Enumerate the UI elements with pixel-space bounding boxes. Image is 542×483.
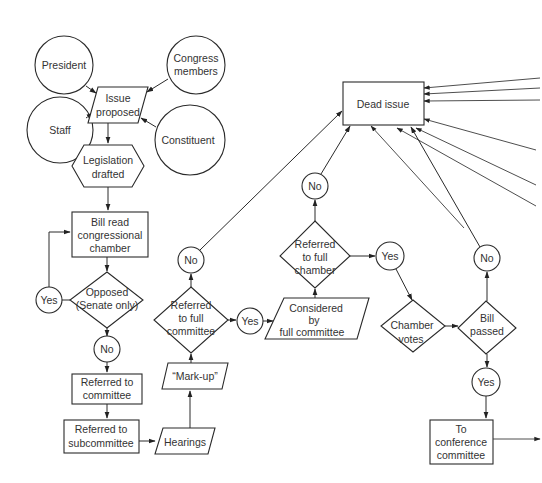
rfch-yes-node: Yes (376, 242, 404, 270)
rfch-no-node: No (302, 173, 328, 199)
markup-label: “Mark-up” (172, 370, 218, 382)
rfc-label-3: committee (167, 325, 216, 337)
chamber-votes-decision: Chamber votes (381, 300, 445, 352)
referred-committee-label-2: committee (83, 389, 132, 401)
bp-no-label: No (480, 252, 494, 264)
considered-label-3: full committee (280, 326, 345, 338)
rfc-no-label: No (184, 254, 198, 266)
legislative-process-flowchart: Dead issue President Congress members St… (0, 0, 542, 483)
referred-subcommittee-label-2: subcommittee (68, 437, 134, 449)
president-label: President (42, 59, 86, 71)
chamber-votes-label-2: votes (398, 333, 423, 345)
legislation-drafted-node: Legislation drafted (72, 145, 144, 187)
rfch-label-1: Referred (295, 238, 336, 250)
considered-label-2: by (308, 314, 320, 326)
bill-read-label-3: chamber (90, 242, 131, 254)
referred-subcommittee-label-1: Referred to (75, 423, 128, 435)
bp-no-node: No (474, 245, 500, 271)
opposed-yes-label: Yes (40, 294, 57, 306)
congress-members-label-2: members (174, 65, 218, 77)
president-node: President (35, 36, 93, 94)
chamber-votes-label-1: Chamber (390, 319, 434, 331)
opposed-no-label: No (100, 343, 114, 355)
legislation-drafted-label-2: drafted (92, 168, 125, 180)
hearings-label: Hearings (164, 436, 206, 448)
rfc-label-2: to full (178, 312, 203, 324)
bp-yes-node: Yes (472, 368, 500, 396)
congress-members-label-1: Congress (174, 52, 219, 64)
rfc-yes-node: Yes (237, 308, 263, 334)
conference-label-1: To (455, 423, 466, 435)
dead-issue-label: Dead issue (357, 98, 410, 110)
referred-full-chamber-decision: Referred to full chamber (280, 221, 350, 288)
opposed-no-node: No (94, 336, 120, 362)
considered-full-committee-node: Considered by full committee (265, 298, 369, 339)
bill-passed-label-2: passed (470, 325, 504, 337)
rfch-label-3: chamber (295, 264, 336, 276)
hearings-node: Hearings (155, 428, 215, 454)
rfc-label-1: Referred (171, 299, 212, 311)
bill-read-node: Bill read congressional chamber (72, 212, 148, 257)
bill-read-label-1: Bill read (91, 216, 129, 228)
constituent-label: Constituent (161, 134, 214, 146)
bill-read-label-2: congressional (78, 229, 143, 241)
rfc-no-node: No (178, 247, 204, 273)
opposed-yes-node: Yes (36, 287, 62, 313)
opposed-decision: Opposed (Senate only) (70, 272, 143, 328)
issue-proposed-node: Issue proposed (88, 87, 148, 123)
congress-members-node: Congress members (167, 36, 225, 94)
referred-full-committee-decision: Referred to full committee (154, 287, 228, 353)
staff-label: Staff (49, 124, 70, 136)
referred-to-committee-node: Referred to committee (72, 374, 142, 404)
conference-committee-node: To conference committee (430, 420, 493, 464)
issue-proposed-label-1: Issue (105, 92, 130, 104)
opposed-label-1: Opposed (86, 286, 129, 298)
dead-issue-box: Dead issue (343, 82, 424, 125)
bp-yes-label: Yes (477, 376, 494, 388)
opposed-label-2: (Senate only) (76, 299, 138, 311)
legislation-drafted-label-1: Legislation (83, 154, 133, 166)
rfch-no-label: No (308, 180, 322, 192)
constituent-node: Constituent (155, 105, 225, 175)
conference-label-3: committee (437, 449, 486, 461)
referred-to-subcommittee-node: Referred to subcommittee (64, 420, 139, 453)
referred-committee-label-1: Referred to (81, 376, 134, 388)
rfc-yes-label: Yes (241, 315, 258, 327)
bill-passed-label-1: Bill (480, 312, 494, 324)
issue-proposed-label-2: proposed (96, 106, 140, 118)
rfch-label-2: to full (302, 251, 327, 263)
markup-node: “Mark-up” (162, 363, 228, 389)
conference-label-2: conference (435, 436, 487, 448)
considered-label-1: Considered (289, 302, 343, 314)
rfch-yes-label: Yes (381, 250, 398, 262)
bill-passed-decision: Bill passed (458, 301, 516, 354)
